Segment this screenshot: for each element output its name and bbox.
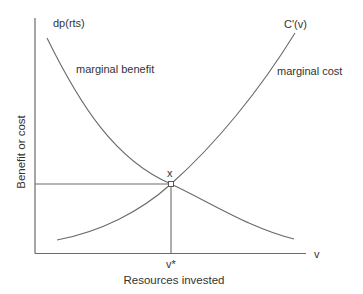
y-axis-title: Benefit or cost [15,114,27,188]
equilibrium-point-label: x [167,167,173,179]
marginal-analysis-diagram: dp(rts) marginal benefit C'(v) marginal … [0,0,363,294]
marginal-benefit-label: marginal benefit [76,63,154,75]
equilibrium-point-marker [169,182,174,187]
x-axis-end-label: v [314,248,320,260]
equilibrium-v-star-label: v* [166,258,177,270]
marginal-benefit-function-label: dp(rts) [53,17,85,29]
marginal-cost-label: marginal cost [277,65,342,77]
x-axis-title: Resources invested [124,274,225,286]
equilibrium-guides [35,184,171,254]
marginal-cost-function-label: C'(v) [284,18,307,30]
